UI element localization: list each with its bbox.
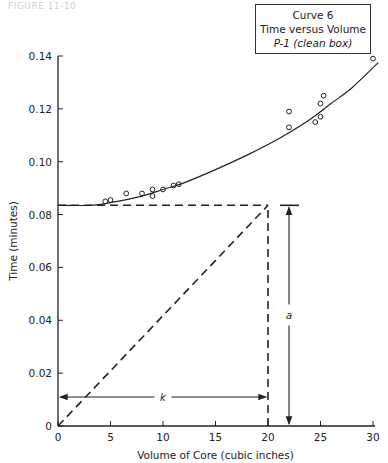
x-tick-label: 25: [314, 431, 327, 443]
y-tick-label: 0.02: [29, 367, 52, 379]
x-tick-label: 30: [366, 431, 379, 443]
data-point: [371, 56, 376, 61]
x-tick-label: 0: [55, 431, 62, 443]
data-point: [150, 187, 155, 192]
legend-condition: P-1 (clean box): [256, 36, 370, 50]
x-tick-label: 20: [261, 431, 274, 443]
x-tick-label: 10: [156, 431, 169, 443]
y-tick-label: 0.08: [29, 209, 52, 221]
y-tick-label: 0.10: [29, 156, 52, 168]
y-tick-label: 0.12: [29, 103, 52, 115]
data-point: [318, 114, 323, 119]
data-point: [108, 198, 113, 203]
data-point: [287, 109, 292, 114]
data-point: [124, 191, 129, 196]
data-point: [313, 120, 318, 125]
chart-plot: 00.020.040.060.080.100.120.1405101520253…: [0, 0, 388, 463]
data-point: [287, 125, 292, 130]
x-tick-label: 5: [107, 431, 114, 443]
data-point: [321, 93, 326, 98]
k-label: k: [160, 392, 167, 403]
y-axis-title: Time (minutes): [7, 201, 19, 282]
y-tick-label: 0.06: [29, 261, 53, 273]
legend-box: Curve 6 Time versus Volume P-1 (clean bo…: [255, 4, 371, 54]
legend-title: Curve 6: [256, 8, 370, 22]
legend-subtitle: Time versus Volume: [256, 22, 370, 36]
x-tick-label: 15: [209, 431, 222, 443]
y-tick-label: 0.14: [29, 50, 53, 62]
y-tick-label: 0: [45, 420, 52, 432]
data-point: [150, 194, 155, 199]
y-tick-label: 0.04: [29, 314, 53, 326]
x-axis-title: Volume of Core (cubic inches): [137, 449, 294, 461]
data-point: [318, 101, 323, 106]
fitted-curve: [58, 63, 378, 206]
a-label: a: [286, 310, 292, 321]
